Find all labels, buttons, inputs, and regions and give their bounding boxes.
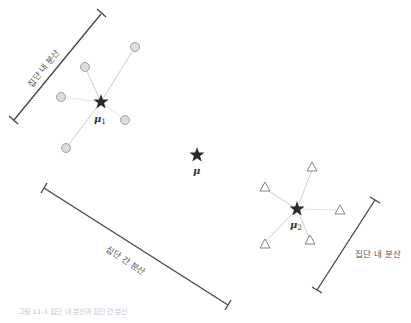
circle-point-icon: [57, 93, 66, 102]
group1-spokes: [61, 47, 135, 148]
group2-mean-label: μ2: [290, 219, 302, 232]
group2-points: [260, 162, 345, 248]
circle-point-icon: [121, 116, 130, 125]
triangle-point-icon: [260, 239, 270, 248]
triangle-point-icon: [307, 162, 317, 171]
group1-mean-label: μ1: [94, 113, 106, 126]
triangle-point-icon: [335, 205, 345, 214]
within-variance-bar-left: [9, 9, 106, 124]
circle-point-icon: [131, 43, 140, 52]
grand-mean-star-icon: [189, 147, 204, 161]
grand-mean-label: μ: [193, 165, 200, 176]
within-variance-bar-right: [312, 197, 380, 293]
figure-caption: 그림 11-1 집단 내 분산과 집단 간 분산: [18, 306, 127, 316]
circle-point-icon: [81, 63, 90, 72]
triangle-point-icon: [305, 235, 315, 244]
between-variance-bar: [41, 183, 231, 310]
circle-point-icon: [62, 144, 71, 153]
group2-mean-star-icon: [289, 201, 304, 215]
within-variance-label-right: 집단 내 분산: [355, 249, 400, 259]
variance-diagram: μ1 μ μ2 집단 내 분산 집단 간 분산 집단 내 분산: [0, 0, 411, 323]
triangle-point-icon: [260, 182, 270, 191]
